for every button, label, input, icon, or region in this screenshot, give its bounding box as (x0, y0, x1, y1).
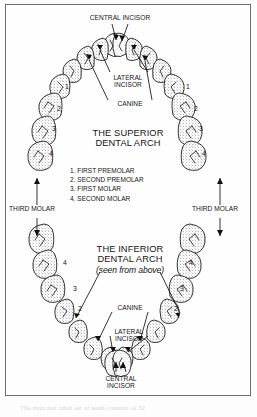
tooth-number-lower-left-4: 4 (63, 259, 67, 266)
title-superior-dental-arch: THE SUPERIOR DENTAL ARCH (93, 129, 164, 149)
tooth-number-upper-left-4: 4 (49, 150, 53, 157)
label-third-molar-left: THIRD MOLAR (9, 206, 55, 213)
legend-tooth-key: 1. FIRST PREMOLAR 2. SECOND PREMOLAR 3. … (70, 166, 144, 203)
tooth-number-upper-right-2: 2 (194, 105, 198, 112)
tooth-number-upper-right-3: 3 (199, 125, 203, 132)
title-inferior-note: (seen from above) (96, 266, 164, 275)
label-third-molar-right: THIRD MOLAR (192, 206, 238, 213)
page-caption: The man and adult set of teeth consists … (20, 404, 240, 416)
label-bottom-lateral-incisor: LATERAL INCISOR (114, 329, 143, 343)
tooth-number-lower-left-3: 3 (73, 285, 77, 292)
tooth-number-lower-right-4: 4 (189, 259, 193, 266)
tooth-number-upper-left-3: 3 (52, 125, 56, 132)
label-top-canine: CANINE (117, 101, 142, 108)
label-top-lateral-incisor: LATERAL INCISOR (113, 75, 142, 89)
label-bottom-canine: CANINE (117, 305, 142, 312)
tooth-number-upper-left-2: 2 (57, 105, 61, 112)
label-top-central-incisor: CENTRAL INCISOR (90, 15, 151, 22)
tooth-number-upper-right-4: 4 (202, 150, 206, 157)
tooth-number-lower-right-3: 3 (180, 285, 184, 292)
label-bottom-central-incisor: CENTRAL INCISOR (105, 376, 136, 390)
tooth-number-lower-right-2: 2 (174, 305, 178, 312)
tooth-number-upper-left-1: 1 (65, 83, 69, 90)
title-inferior-dental-arch: THE INFERIOR DENTAL ARCH (97, 245, 164, 265)
tooth-number-lower-left-2: 2 (78, 305, 82, 312)
tooth-number-upper-right-1: 1 (186, 83, 190, 90)
dental-arch-figure: CENTRAL INCISOR LATERAL INCISOR CANINE T… (0, 0, 257, 417)
